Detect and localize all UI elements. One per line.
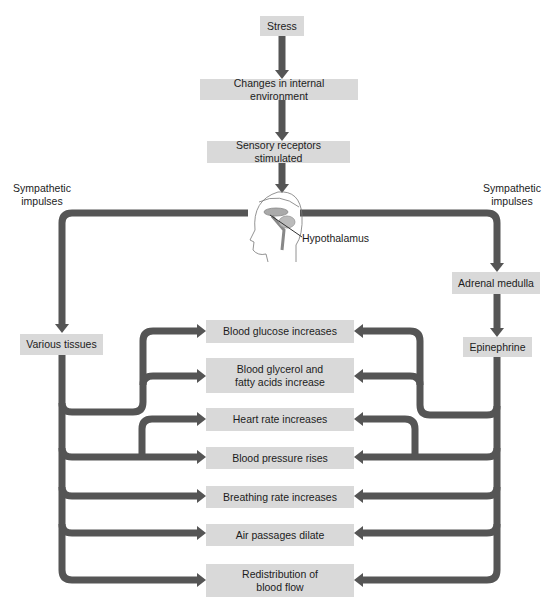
- effect-air-passages: Air passages dilate: [206, 524, 354, 546]
- effect-heart-rate: Heart rate increases: [206, 408, 354, 431]
- effect-blood-pressure: Blood pressure rises: [206, 447, 354, 469]
- adrenal-medulla-box: Adrenal medulla: [452, 272, 540, 294]
- effect-breathing-rate: Breathing rate increases: [206, 486, 354, 508]
- hypothalamus-label: Hypothalamus: [302, 232, 369, 245]
- stress-response-diagram: Stress Changes in internal environment S…: [0, 0, 556, 612]
- head-brain-icon: [250, 192, 302, 262]
- stress-box: Stress: [260, 16, 304, 36]
- effect-glycerol-fatty-acids: Blood glycerol and fatty acids increase: [206, 358, 354, 393]
- internal-environment-box: Changes in internal environment: [200, 79, 358, 100]
- left-sympathetic-impulses-label: Sympathetic impulses: [12, 182, 72, 208]
- epinephrine-box: Epinephrine: [463, 337, 532, 357]
- effect-blood-glucose: Blood glucose increases: [206, 320, 354, 343]
- effect-blood-flow-redistribution: Redistribution of blood flow: [206, 564, 354, 597]
- right-sympathetic-impulses-label: Sympathetic impulses: [482, 182, 542, 208]
- various-tissues-box: Various tissues: [20, 334, 103, 355]
- sensory-receptors-box: Sensory receptors stimulated: [207, 141, 350, 163]
